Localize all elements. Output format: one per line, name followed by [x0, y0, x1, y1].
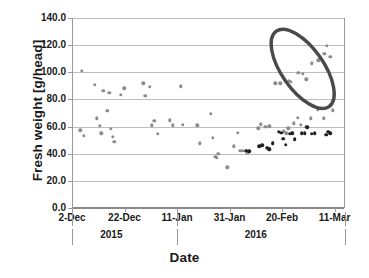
y-axis-tick-mark — [68, 154, 73, 155]
gridline — [73, 181, 344, 182]
x-axis-group-label: 2016 — [245, 229, 267, 241]
data-point — [305, 78, 308, 81]
data-point — [260, 143, 264, 147]
data-point — [111, 135, 114, 138]
x-axis-title: Date — [0, 250, 369, 265]
data-point — [109, 127, 112, 130]
gridline — [73, 154, 344, 155]
y-axis-tick-label: 120.0 — [22, 40, 66, 50]
data-point — [303, 132, 307, 136]
data-point — [113, 140, 116, 143]
data-point — [93, 83, 96, 86]
data-point — [198, 141, 201, 144]
data-point — [292, 121, 295, 124]
y-axis-tick-mark — [68, 127, 73, 128]
x-axis-tick-label: 31-Jan — [214, 212, 246, 224]
data-point — [322, 116, 325, 119]
data-point — [119, 93, 122, 96]
x-axis-group-separator — [72, 212, 73, 226]
data-point — [284, 143, 288, 147]
data-point — [100, 132, 103, 135]
data-point — [209, 112, 212, 115]
data-point — [236, 131, 239, 134]
y-axis-tick-mark — [68, 72, 73, 73]
x-axis-tick-label: 20-Feb — [266, 212, 298, 224]
gridline — [73, 18, 344, 19]
data-point — [271, 141, 275, 145]
data-point — [232, 145, 235, 148]
data-point — [211, 136, 214, 139]
data-point — [215, 156, 218, 159]
data-point — [108, 91, 111, 94]
data-point — [248, 149, 252, 153]
x-axis-group-separator — [177, 212, 178, 226]
data-point — [95, 117, 98, 120]
data-point — [226, 166, 229, 169]
data-point — [264, 125, 267, 128]
x-axis-group-separator — [345, 229, 346, 245]
scatter-chart-figure: Fresh weight [g/head] 0.020.040.060.080.… — [0, 0, 369, 278]
x-axis-tick-labels: 2-Dec22-Dec11-Jan31-Jan20-Feb11-Mar — [0, 212, 369, 228]
data-point — [325, 44, 328, 47]
x-axis-group-labels: 20152016 — [0, 229, 369, 245]
data-point — [102, 89, 105, 92]
y-axis-tick-label: 40.0 — [22, 149, 66, 159]
gridline — [73, 45, 344, 46]
y-axis-tick-label: 100.0 — [22, 67, 66, 77]
data-point — [291, 132, 295, 136]
x-axis-group-label: 2015 — [100, 229, 122, 241]
data-point — [280, 131, 284, 135]
data-point — [257, 126, 260, 129]
x-axis-tick-label: 22-Dec — [108, 212, 141, 224]
data-point — [123, 86, 126, 89]
data-point — [297, 71, 300, 74]
x-axis-baseline — [73, 207, 344, 209]
y-axis-tick-label: 80.0 — [22, 94, 66, 104]
data-point — [268, 148, 272, 152]
data-point — [217, 152, 220, 155]
data-point — [301, 72, 304, 75]
data-point — [281, 137, 285, 141]
data-point — [310, 62, 313, 65]
x-axis-group-separator — [177, 229, 178, 245]
y-axis-tick-label: 60.0 — [22, 122, 66, 132]
data-point — [289, 80, 292, 83]
data-point — [329, 55, 332, 58]
data-point — [323, 52, 326, 55]
data-point — [331, 109, 334, 112]
data-point — [148, 85, 151, 88]
data-point — [296, 116, 299, 119]
y-axis-tick-mark — [68, 181, 73, 182]
data-point — [179, 85, 182, 88]
data-point — [287, 126, 290, 129]
data-point — [316, 59, 319, 62]
data-point — [168, 119, 171, 122]
plot-area — [72, 18, 345, 208]
data-point — [153, 119, 156, 122]
data-point — [309, 117, 312, 120]
data-point — [143, 94, 146, 97]
y-axis-tick-mark — [68, 45, 73, 46]
gridline — [73, 99, 344, 100]
highlight-ellipse-shape — [259, 19, 346, 118]
data-point — [279, 82, 282, 85]
data-point — [79, 129, 82, 132]
data-point — [293, 138, 297, 142]
x-axis-group-separator — [72, 229, 73, 245]
x-axis-group-separator — [345, 212, 346, 226]
data-point — [259, 122, 262, 125]
y-axis-tick-label: 20.0 — [22, 176, 66, 186]
data-point — [105, 109, 108, 112]
data-point — [305, 125, 309, 129]
data-point — [313, 131, 317, 135]
data-point — [328, 132, 332, 136]
y-axis-tick-label: 140.0 — [22, 13, 66, 23]
data-point — [273, 81, 276, 84]
y-axis-tick-mark — [68, 99, 73, 100]
y-axis-tick-mark — [68, 18, 73, 19]
data-point — [316, 107, 319, 110]
data-point — [82, 134, 85, 137]
data-point — [142, 81, 145, 84]
data-point — [156, 132, 159, 135]
